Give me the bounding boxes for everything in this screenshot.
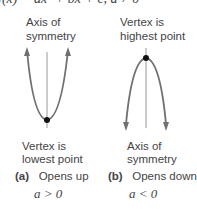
axis-label-a-1: Axis of (26, 16, 61, 29)
arrow-up-icon (24, 47, 30, 56)
caption-b-text: Opens down (132, 170, 197, 182)
vertex-label-a-2: lowest point (22, 153, 83, 166)
condition-a: a > 0 (34, 187, 62, 200)
vertex-point (143, 55, 149, 61)
vertex-label-a-1: Vertex is (22, 140, 66, 153)
vertex-label-b-1: Vertex is (120, 16, 164, 29)
arrow-down-icon (163, 122, 169, 131)
axis-label-a-2: symmetry (26, 30, 76, 43)
parabola-opens-up (24, 47, 71, 128)
axis-label-b-2: symmetry (127, 153, 177, 166)
caption-a-text: Opens up (39, 170, 89, 182)
axis-label-b-1: Axis of (127, 140, 162, 153)
arrow-down-icon (123, 122, 129, 131)
caption-b: (b) Opens down (108, 170, 197, 183)
parabola-opens-down (123, 48, 169, 131)
panel-tag-a: (a) (15, 170, 29, 182)
panel-tag-b: (b) (108, 170, 123, 182)
caption-a: (a) Opens up (15, 170, 89, 183)
vertex-point (44, 117, 50, 123)
condition-b: a < 0 (129, 187, 157, 200)
vertex-label-b-2: highest point (120, 30, 185, 43)
arrow-up-icon (65, 47, 71, 56)
